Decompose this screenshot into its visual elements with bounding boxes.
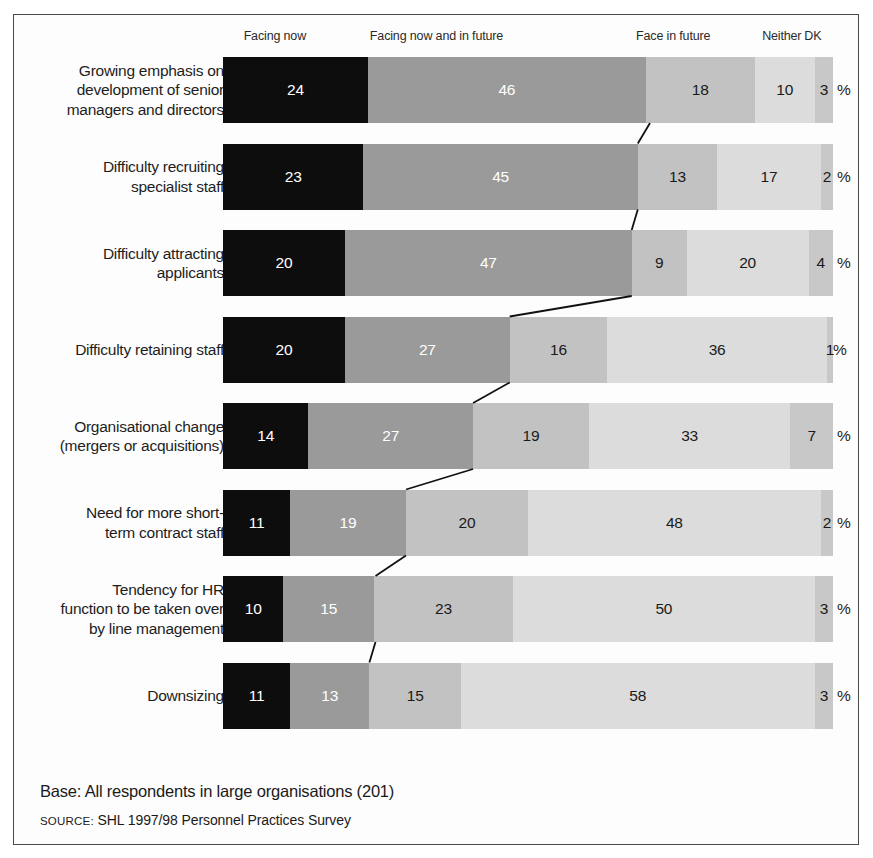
segment-value: 20 bbox=[276, 341, 293, 359]
row-label-line: Growing emphasis on bbox=[0, 61, 224, 81]
bar-segment-4: 2 bbox=[821, 490, 833, 556]
row-label-line: specialist staff bbox=[0, 177, 224, 197]
row-label-line: Organisational change bbox=[0, 417, 224, 437]
bar-segment-0: 11 bbox=[223, 663, 290, 729]
row-label: Difficulty attractingapplicants bbox=[0, 244, 224, 283]
bar-segment-4: 1 bbox=[827, 317, 833, 383]
chart-row: Growing emphasis ondevelopment of senior… bbox=[14, 57, 860, 123]
segment-value: 20 bbox=[459, 514, 476, 532]
percent-sign: % bbox=[837, 687, 851, 705]
bar-segment-0: 23 bbox=[223, 144, 363, 210]
row-label: Organisational change(mergers or acquisi… bbox=[0, 417, 224, 456]
bar-segment-1: 45 bbox=[363, 144, 638, 210]
segment-value: 58 bbox=[629, 687, 646, 705]
bar-segment-4: 3 bbox=[815, 576, 833, 642]
segment-value: 11 bbox=[249, 514, 265, 532]
stacked-bar: 244618103 bbox=[223, 57, 833, 123]
bar-segment-0: 10 bbox=[223, 576, 283, 642]
segment-value: 13 bbox=[669, 168, 686, 186]
legend-label-3: Neither bbox=[762, 29, 801, 43]
percent-sign: % bbox=[837, 168, 851, 186]
row-label-line: Difficulty retaining staff bbox=[0, 340, 224, 360]
bar-segment-2: 19 bbox=[473, 403, 589, 469]
legend-label-4: DK bbox=[804, 29, 821, 43]
segment-value: 19 bbox=[523, 427, 540, 445]
segment-value: 3 bbox=[820, 81, 828, 99]
stacked-bar: 111920482 bbox=[223, 490, 833, 556]
bar-segment-1: 46 bbox=[368, 57, 646, 123]
segment-value: 10 bbox=[776, 81, 793, 99]
segment-value: 10 bbox=[245, 600, 262, 618]
bar-segment-1: 27 bbox=[308, 403, 473, 469]
row-label-line: Downsizing bbox=[0, 686, 224, 706]
chart-row: Organisational change(mergers or acquisi… bbox=[14, 403, 860, 469]
chart-frame: Facing nowFacing now and in futureFace i… bbox=[13, 14, 859, 845]
segment-value: 27 bbox=[382, 427, 399, 445]
segment-value: 23 bbox=[435, 600, 452, 618]
row-label-line: development of senior bbox=[0, 80, 224, 100]
chart-footer: Base: All respondents in large organisat… bbox=[40, 782, 820, 828]
segment-value: 19 bbox=[340, 514, 357, 532]
row-label: Tendency for HRfunction to be taken over… bbox=[0, 580, 224, 639]
bar-segment-2: 20 bbox=[406, 490, 528, 556]
segment-value: 20 bbox=[739, 254, 756, 272]
percent-sign: % bbox=[837, 81, 851, 99]
segment-value: 1 bbox=[826, 341, 834, 359]
bar-segment-2: 9 bbox=[632, 230, 687, 296]
row-label-line: term contract staff bbox=[0, 523, 224, 543]
bar-segment-3: 58 bbox=[461, 663, 815, 729]
bar-segment-4: 3 bbox=[815, 57, 833, 123]
row-label: Growing emphasis ondevelopment of senior… bbox=[0, 61, 224, 120]
segment-value: 4 bbox=[817, 254, 825, 272]
row-label: Need for more short-term contract staff bbox=[0, 503, 224, 542]
bar-segment-3: 36 bbox=[607, 317, 827, 383]
segment-value: 47 bbox=[480, 254, 497, 272]
bar-segment-2: 23 bbox=[374, 576, 513, 642]
bar-segment-2: 13 bbox=[638, 144, 717, 210]
bar-segment-4: 3 bbox=[815, 663, 833, 729]
source-label: SOURCE: bbox=[40, 815, 94, 827]
bar-segment-4: 7 bbox=[790, 403, 833, 469]
plot-area: Growing emphasis ondevelopment of senior… bbox=[14, 49, 860, 739]
segment-value: 17 bbox=[761, 168, 778, 186]
bar-segment-3: 33 bbox=[589, 403, 790, 469]
bar-segment-1: 27 bbox=[345, 317, 510, 383]
segment-value: 2 bbox=[823, 168, 831, 186]
segment-value: 3 bbox=[820, 600, 828, 618]
bar-segment-2: 16 bbox=[510, 317, 608, 383]
segment-value: 16 bbox=[550, 341, 567, 359]
stacked-bar: 20479204 bbox=[223, 230, 833, 296]
bar-segment-1: 15 bbox=[283, 576, 374, 642]
stacked-bar: 142719337 bbox=[223, 403, 833, 469]
row-label-line: function to be taken over bbox=[0, 599, 224, 619]
segment-value: 15 bbox=[320, 600, 337, 618]
chart-row: Difficulty recruitingspecialist staff234… bbox=[14, 144, 860, 210]
row-label-line: Tendency for HR bbox=[0, 580, 224, 600]
stacked-bar: 101523503 bbox=[223, 576, 833, 642]
bar-segment-3: 10 bbox=[755, 57, 815, 123]
bar-segment-4: 2 bbox=[821, 144, 833, 210]
segment-value: 13 bbox=[321, 687, 338, 705]
bar-segment-3: 50 bbox=[513, 576, 815, 642]
percent-sign: % bbox=[837, 254, 851, 272]
segment-value: 14 bbox=[257, 427, 274, 445]
segment-value: 27 bbox=[419, 341, 436, 359]
row-label-line: applicants bbox=[0, 263, 224, 283]
row-label-line: by line management bbox=[0, 619, 224, 639]
row-label: Difficulty retaining staff bbox=[0, 340, 224, 360]
bar-segment-1: 13 bbox=[290, 663, 369, 729]
stacked-bar: 202716361 bbox=[223, 317, 833, 383]
chart-legend: Facing nowFacing now and in futureFace i… bbox=[14, 29, 858, 49]
stacked-bar: 111315583 bbox=[223, 663, 833, 729]
segment-value: 2 bbox=[823, 514, 831, 532]
segment-value: 48 bbox=[666, 514, 683, 532]
chart-row: Need for more short-term contract staff1… bbox=[14, 490, 860, 556]
bar-segment-0: 11 bbox=[223, 490, 290, 556]
base-note: Base: All respondents in large organisat… bbox=[40, 782, 820, 801]
legend-label-2: Face in future bbox=[636, 29, 710, 43]
segment-value: 18 bbox=[692, 81, 709, 99]
source-text: SHL 1997/98 Personnel Practices Survey bbox=[98, 812, 351, 828]
chart-row: Tendency for HRfunction to be taken over… bbox=[14, 576, 860, 642]
bar-segment-0: 24 bbox=[223, 57, 368, 123]
bar-segment-4: 4 bbox=[809, 230, 833, 296]
